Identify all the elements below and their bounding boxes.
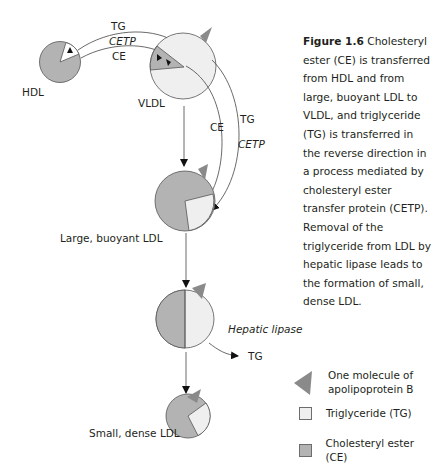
hdl-particle <box>40 42 81 83</box>
small-ldl-label: Small, dense LDL <box>89 427 180 439</box>
large-ldl-label: Large, buoyant LDL <box>60 232 163 244</box>
hepatic-tg-label: TG <box>247 350 263 362</box>
legend-apob-line1: One molecule of <box>328 369 413 383</box>
intermediate-ldl-particle <box>156 283 214 348</box>
hdl-label: HDL <box>22 86 44 98</box>
hdl-tg-label: TG <box>110 20 126 32</box>
hdl-cetp-label: CETP <box>109 35 136 47</box>
tg-swatch-icon <box>299 407 312 420</box>
tg-transfer-arc-outer <box>212 60 239 210</box>
hepatic-lipase-label: Hepatic lipase <box>228 323 302 335</box>
legend-item-tg: Triglyceride (TG) <box>294 407 412 421</box>
legend-ce-label: Cholesteryl ester (CE) <box>326 437 434 464</box>
figure-caption-text: Cholesteryl ester (CE) is transferred fr… <box>303 35 431 307</box>
legend-apob-line2: apolipoprotein B <box>328 383 413 397</box>
figure-number: Figure 1.6 <box>303 35 364 47</box>
apob-triangle-icon <box>294 371 314 395</box>
ce-swatch-icon <box>299 444 312 457</box>
ldl-ce-label: CE <box>210 121 224 133</box>
legend-item-apob: One molecule of apolipoprotein B <box>294 369 413 396</box>
ldl-tg-label: TG <box>239 113 255 125</box>
vldl-particle <box>150 27 216 99</box>
hepatic-tg-arrow <box>209 343 238 356</box>
hdl-ce-label: CE <box>112 50 126 62</box>
large-ldl-particle <box>155 164 215 231</box>
figure-caption: Figure 1.6 Cholesteryl ester (CE) is tra… <box>303 32 431 311</box>
legend-tg-label: Triglyceride (TG) <box>326 407 412 421</box>
ldl-cetp-label: CETP <box>238 138 265 150</box>
vldl-label: VLDL <box>138 97 165 109</box>
legend-item-ce: Cholesteryl ester (CE) <box>294 437 434 464</box>
